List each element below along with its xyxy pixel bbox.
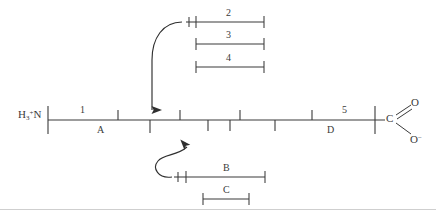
bracket-label-b: B [223,163,230,173]
segment-number-1: 1 [80,105,85,115]
bond-double-upper-a [396,105,411,115]
carboxylate-bonds [375,105,412,134]
anionic-oxygen-atom: O [410,133,418,145]
n-term-h: H [18,108,26,120]
carbonyl-oxygen-label: O [411,97,419,108]
bracket-label-3: 3 [226,30,231,40]
bottom-arrow [156,147,187,177]
bond-double-upper-b [397,109,412,119]
diagram-svg [0,0,436,216]
bracket-label-2: 2 [226,8,231,18]
n-terminus-label: H3+N [18,109,41,122]
segment-number-5: 5 [342,105,347,115]
anionic-oxygen-label: O− [410,130,422,146]
segment-letter-a: A [97,125,104,135]
n-term-n: N [33,108,41,120]
bracket-label-4: 4 [226,53,231,63]
figure-canvas: H3+N C O O− 1 5 A D 2 3 4 B C [0,0,436,216]
c-terminus-carbon-label: C [386,113,393,124]
bond-single-lower [396,123,411,134]
top-arrow [152,22,182,110]
page-edge-scanline [0,209,436,210]
segment-letter-d: D [327,125,334,135]
bracket-label-c: C [223,185,230,195]
top-bracket-group [186,16,264,73]
anionic-oxygen-charge: − [418,134,422,142]
bottom-bracket-group [174,171,265,205]
